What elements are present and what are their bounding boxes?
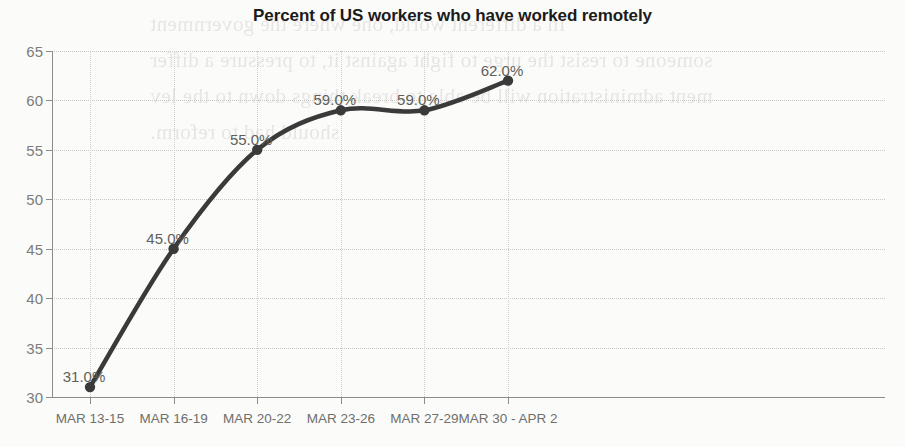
x-tick-label-4: MAR 27-29 [390, 411, 458, 426]
x-tick-mark-4 [424, 397, 425, 404]
series-line [52, 51, 885, 397]
y-tick-label-45: 45 [26, 240, 43, 257]
chart-title: Percent of US workers who have worked re… [0, 6, 905, 26]
x-axis-line [52, 397, 885, 398]
x-tick-label-2: MAR 20-22 [223, 411, 291, 426]
y-tick-label-30: 30 [26, 389, 43, 406]
data-point-label-2: 55.0% [230, 131, 273, 148]
data-point-label-4: 59.0% [397, 91, 440, 108]
y-tick-label-65: 65 [26, 43, 43, 60]
y-tick-label-40: 40 [26, 290, 43, 307]
x-tick-label-3: MAR 23-26 [307, 411, 375, 426]
x-tick-mark-0 [90, 397, 91, 404]
x-tick-label-0: MAR 13-15 [56, 411, 124, 426]
plot-area: 3035404550556065 MAR 13-15MAR 16-19MAR 2… [52, 51, 885, 397]
y-tick-label-35: 35 [26, 339, 43, 356]
data-point-label-1: 45.0% [146, 230, 189, 247]
y-tick-label-60: 60 [26, 92, 43, 109]
x-tick-label-1: MAR 16-19 [139, 411, 207, 426]
x-tick-mark-1 [174, 397, 175, 404]
scanned-chart-page: In a different world, one where the gove… [0, 0, 905, 447]
y-tick-label-55: 55 [26, 141, 43, 158]
data-point-label-5: 62.0% [481, 62, 524, 79]
line-chart: Percent of US workers who have worked re… [0, 0, 905, 447]
x-tick-mark-2 [257, 397, 258, 404]
y-tick-label-50: 50 [26, 191, 43, 208]
x-tick-label-5: MAR 30 - APR 2 [458, 411, 557, 426]
x-tick-mark-5 [508, 397, 509, 404]
data-point-label-0: 31.0% [63, 368, 106, 385]
y-tick-mark-30 [46, 397, 52, 398]
data-point-label-3: 59.0% [314, 91, 357, 108]
x-tick-mark-3 [341, 397, 342, 404]
